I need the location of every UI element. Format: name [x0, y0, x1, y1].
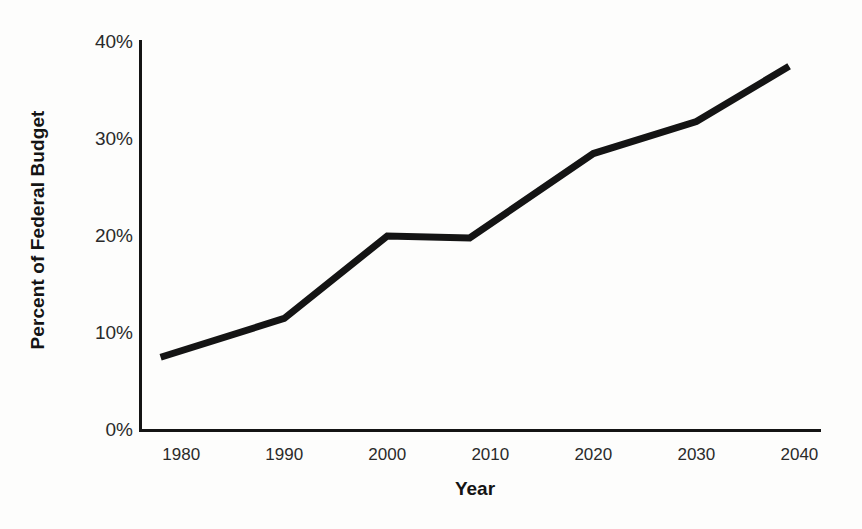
y-tick-label: 10% [63, 323, 133, 342]
x-tick-label: 1980 [141, 446, 221, 463]
x-tick-label: 2040 [759, 446, 839, 463]
y-tick-label: 20% [63, 226, 133, 245]
y-tick-label: 40% [63, 32, 133, 51]
x-tick-label: 1990 [244, 446, 324, 463]
y-axis-title: Percent of Federal Budget [18, 20, 58, 440]
y-tick-label: 0% [63, 420, 133, 439]
y-tick-label: 30% [63, 129, 133, 148]
x-axis-tick-labels: 1980199020002010202020302040 [0, 446, 862, 472]
line-chart-figure: Percent of Federal Budget 0%10%20%30%40%… [0, 0, 862, 529]
x-tick-label: 2010 [450, 446, 530, 463]
x-tick-label: 2000 [347, 446, 427, 463]
x-axis-title: Year [130, 478, 820, 500]
x-axis-line [139, 429, 821, 432]
y-axis-line [139, 40, 142, 432]
x-tick-label: 2020 [553, 446, 633, 463]
x-tick-label: 2030 [656, 446, 736, 463]
